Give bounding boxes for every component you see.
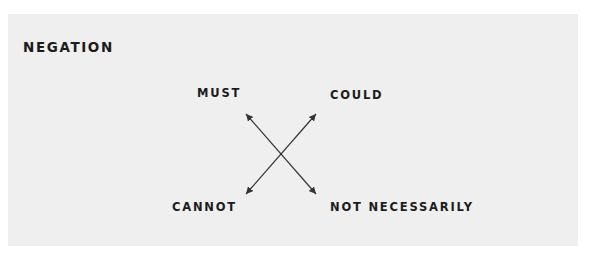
crossing-arrows [0,0,589,267]
